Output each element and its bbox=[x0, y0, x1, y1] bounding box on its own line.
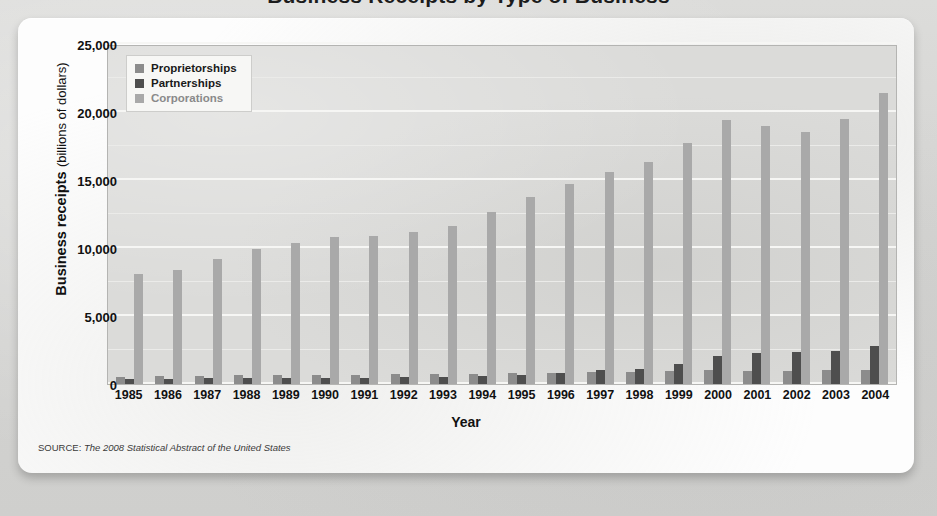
x-axis-tick-label: 1992 bbox=[384, 388, 423, 402]
x-axis-tick-label: 2004 bbox=[856, 388, 895, 402]
y-axis-tick-label: 5,000 bbox=[0, 310, 117, 325]
figure-title: Business Receipts by Type of Business bbox=[0, 0, 937, 10]
x-axis-tick-label: 1988 bbox=[227, 388, 266, 402]
x-axis-tick-label: 1995 bbox=[502, 388, 541, 402]
legend-item-label: Corporations bbox=[151, 91, 223, 106]
x-axis-tick-label: 1985 bbox=[109, 388, 148, 402]
x-axis-tick-label: 1990 bbox=[305, 388, 344, 402]
x-axis-title: Year bbox=[18, 414, 914, 430]
legend-item-part: Partnerships bbox=[135, 76, 237, 91]
x-axis-tick-label: 2003 bbox=[816, 388, 855, 402]
x-axis-tick-label: 2000 bbox=[698, 388, 737, 402]
x-axis-tick-label: 1986 bbox=[148, 388, 187, 402]
x-axis-tick-label: 1997 bbox=[581, 388, 620, 402]
x-axis-tick-label: 1994 bbox=[463, 388, 502, 402]
x-axis-tick-label: 1999 bbox=[659, 388, 698, 402]
x-axis-ticks: 1985198619871988198919901991199219931994… bbox=[107, 388, 897, 402]
chart-legend: ProprietorshipsPartnershipsCorporations bbox=[126, 55, 252, 112]
source-note: SOURCE: The 2008 Statistical Abstract of… bbox=[38, 442, 291, 453]
legend-item-corp: Corporations bbox=[135, 91, 237, 106]
x-axis-tick-label: 2002 bbox=[777, 388, 816, 402]
figure-card: Business receipts (billions of dollars) … bbox=[18, 18, 914, 473]
y-axis-tick-label: 25,000 bbox=[0, 38, 117, 53]
x-axis-tick-label: 1991 bbox=[345, 388, 384, 402]
legend-swatch-icon bbox=[135, 79, 144, 88]
legend-item-prop: Proprietorships bbox=[135, 61, 237, 76]
source-title: The 2008 Statistical Abstract of the Uni… bbox=[84, 442, 291, 453]
y-axis-tick-label: 20,000 bbox=[0, 106, 117, 121]
y-axis-tick-label: 0 bbox=[0, 378, 117, 393]
source-kicker: SOURCE: bbox=[38, 442, 81, 453]
x-axis-tick-label: 2001 bbox=[738, 388, 777, 402]
legend-item-label: Proprietorships bbox=[151, 61, 237, 76]
x-axis-tick-label: 1987 bbox=[188, 388, 227, 402]
y-axis-tick-label: 10,000 bbox=[0, 242, 117, 257]
y-axis-tick-label: 15,000 bbox=[0, 174, 117, 189]
legend-item-label: Partnerships bbox=[151, 76, 221, 91]
x-axis-tick-label: 1989 bbox=[266, 388, 305, 402]
legend-swatch-icon bbox=[135, 64, 144, 73]
legend-swatch-icon bbox=[135, 94, 144, 103]
x-axis-tick-label: 1996 bbox=[541, 388, 580, 402]
x-axis-tick-label: 1998 bbox=[620, 388, 659, 402]
x-axis-tick-label: 1993 bbox=[423, 388, 462, 402]
